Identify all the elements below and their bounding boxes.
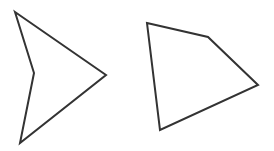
concave-quadrilateral-shape [15,12,106,143]
shapes-drawing [0,0,274,151]
diagram-canvas [0,0,274,151]
quadrilateral-shape [147,23,258,130]
